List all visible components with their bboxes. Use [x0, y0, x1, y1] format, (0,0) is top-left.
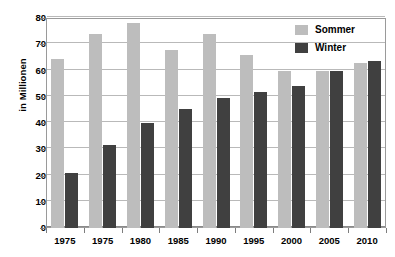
legend-label-sommer: Sommer — [315, 24, 355, 35]
x-tick-mark-3 — [197, 228, 198, 233]
bar-sommer-2010-8 — [354, 63, 367, 228]
bar-group-2 — [127, 18, 154, 228]
x-tick-mark-5 — [273, 228, 274, 233]
bar-group-5 — [240, 18, 267, 228]
bar-group-1 — [89, 18, 116, 228]
legend-label-winter: Winter — [315, 42, 346, 53]
x-tick-mark-2 — [159, 228, 160, 233]
bar-sommer-1990-4 — [203, 34, 216, 228]
bar-winter-2005-7 — [330, 71, 343, 229]
legend-swatch-sommer-icon — [295, 25, 308, 35]
bar-winter-1975-1 — [103, 145, 116, 228]
bar-sommer-1985-3 — [165, 50, 178, 229]
bar-group-3 — [165, 18, 192, 228]
legend: SommerWinter — [295, 22, 355, 58]
bar-group-4 — [203, 18, 230, 228]
x-tick-mark-origin — [46, 228, 47, 233]
bar-winter-1980-2 — [141, 123, 154, 228]
legend-swatch-winter-icon — [295, 43, 308, 53]
bar-sommer-2005-7 — [316, 71, 329, 229]
bar-winter-1975-0 — [65, 173, 78, 228]
x-tick-label-8: 2010 — [344, 235, 390, 246]
x-tick-mark-1 — [122, 228, 123, 233]
gridline-80 — [47, 16, 385, 17]
legend-item-winter: Winter — [295, 40, 355, 55]
x-tick-mark-4 — [235, 228, 236, 233]
bar-winter-1990-4 — [217, 98, 230, 228]
bar-sommer-1995-5 — [240, 55, 253, 228]
bar-winter-2000-6 — [292, 86, 305, 228]
legend-item-sommer: Sommer — [295, 22, 355, 37]
bar-sommer-2000-6 — [278, 71, 291, 229]
x-tick-mark-8 — [386, 228, 387, 233]
bar-winter-2010-8 — [368, 61, 381, 228]
x-tick-mark-0 — [84, 228, 85, 233]
bar-sommer-1975-0 — [51, 59, 64, 228]
bar-winter-1985-3 — [179, 109, 192, 228]
bar-group-0 — [51, 18, 78, 228]
x-tick-mark-7 — [348, 228, 349, 233]
bar-sommer-1975-1 — [89, 34, 102, 228]
bar-sommer-1980-2 — [127, 23, 140, 228]
bar-group-8 — [354, 18, 381, 228]
bar-winter-1995-5 — [254, 92, 267, 229]
bar-chart: in Millionen 80706050403020100 197519751… — [0, 0, 395, 257]
x-tick-mark-6 — [310, 228, 311, 233]
